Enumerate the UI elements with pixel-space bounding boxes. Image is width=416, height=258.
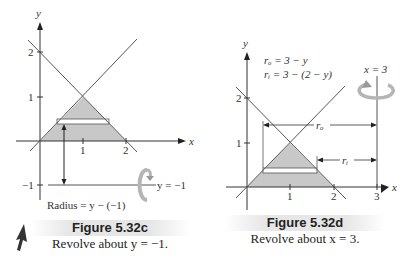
figure-title: Figure 5.32d — [225, 215, 385, 230]
ri-arrow-right-icon — [371, 158, 377, 163]
y-tick-label: 1 — [236, 137, 242, 149]
washer-strip — [57, 119, 109, 124]
x-axis-label: x — [188, 135, 194, 147]
figure-caption: Revolve about x = 3. — [225, 231, 385, 247]
x-axis-arrow-icon — [381, 184, 389, 193]
rotate-arrow-icon — [359, 80, 393, 98]
x-tick-label: 1 — [287, 190, 293, 202]
inner-radius-equation: rᵢ = 3 − (2 − y) — [264, 68, 332, 81]
y-axis-label: y — [35, 7, 41, 19]
x-axis-label: x — [391, 181, 397, 193]
axis-of-revolution-label: x = 3 — [363, 63, 388, 75]
x-tick-label: 2 — [331, 190, 337, 202]
ro-arrow-right-icon — [371, 123, 377, 128]
y-axis-label: y — [242, 37, 248, 49]
figure-caption: Revolve about y = −1. — [30, 236, 190, 252]
ro-arrow-left-icon — [263, 123, 269, 128]
washer-strip — [263, 168, 317, 173]
y-axis-arrow-icon — [244, 52, 250, 60]
figure-5-32c-graph — [16, 22, 186, 200]
outer-radius-equation: rₒ = 3 − y — [264, 54, 308, 66]
y-tick-label: −1 — [22, 179, 34, 191]
x-tick-label: 3 — [374, 190, 380, 202]
x-tick-label: 1 — [80, 144, 86, 156]
y-tick-label: 1 — [28, 91, 34, 103]
y-tick-label: 2 — [236, 92, 242, 104]
y-tick-label: 2 — [28, 46, 34, 58]
radius-arrow-down-icon — [62, 179, 67, 185]
axis-of-revolution-label: y = −1 — [157, 179, 186, 191]
inner-radius-label: rᵢ — [342, 154, 348, 166]
shaded-region — [247, 143, 334, 187]
x-axis-arrow-icon — [178, 138, 186, 144]
cursor-arrow-icon — [16, 224, 27, 251]
ri-arrow-left-icon — [317, 158, 323, 163]
figure-title: Figure 5.32c — [30, 220, 190, 235]
outer-radius-label: rₒ — [316, 119, 323, 131]
radius-formula: Radius = y − (−1) — [47, 199, 126, 212]
y-axis-arrow-icon — [37, 22, 43, 30]
x-tick-label: 2 — [123, 144, 129, 156]
